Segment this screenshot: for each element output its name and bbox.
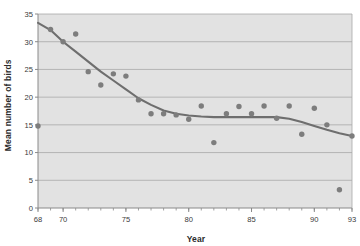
x-tick-label: 90	[310, 215, 318, 224]
data-point-marker	[73, 31, 78, 36]
y-tick-label: 0	[29, 204, 33, 213]
y-tick-label: 10	[25, 148, 33, 157]
data-point-marker	[173, 112, 178, 117]
data-point-marker	[186, 117, 191, 122]
x-tick-label: 70	[59, 215, 67, 224]
x-tick-label: 85	[247, 215, 255, 224]
data-point-marker	[123, 73, 128, 78]
data-point-marker	[324, 122, 329, 127]
data-point-marker	[249, 111, 254, 116]
data-point-marker	[199, 103, 204, 108]
data-point-marker	[98, 82, 103, 87]
data-point-marker	[60, 39, 65, 44]
y-tick-label: 15	[25, 121, 33, 130]
chart-plot-area: 0510152025303568707580859093	[0, 0, 360, 246]
data-point-marker	[312, 106, 317, 111]
data-point-marker	[287, 103, 292, 108]
data-point-marker	[111, 71, 116, 76]
data-point-marker	[349, 133, 354, 138]
bird-population-chart: Mean number of birds 0510152025303568707…	[0, 0, 360, 246]
data-point-marker	[86, 69, 91, 74]
data-point-marker	[35, 123, 40, 128]
data-point-marker	[148, 111, 153, 116]
y-tick-label: 30	[25, 38, 33, 47]
x-axis-title: Year	[187, 234, 206, 244]
data-point-marker	[48, 27, 53, 32]
y-tick-label: 35	[25, 10, 33, 19]
data-point-marker	[211, 140, 216, 145]
y-tick-label: 20	[25, 93, 33, 102]
x-tick-label: 75	[122, 215, 130, 224]
x-tick-label: 68	[34, 215, 42, 224]
data-point-marker	[236, 104, 241, 109]
data-point-marker	[161, 111, 166, 116]
y-tick-label: 5	[29, 176, 33, 185]
data-point-marker	[274, 116, 279, 121]
x-axis-title-container: Year	[36, 228, 356, 246]
data-point-marker	[224, 111, 229, 116]
x-tick-label: 80	[184, 215, 192, 224]
data-point-marker	[299, 132, 304, 137]
data-point-marker	[136, 97, 141, 102]
plot-background	[38, 14, 352, 208]
data-point-marker	[261, 103, 266, 108]
y-tick-label: 25	[25, 65, 33, 74]
x-tick-label: 93	[348, 215, 356, 224]
data-point-marker	[337, 187, 342, 192]
